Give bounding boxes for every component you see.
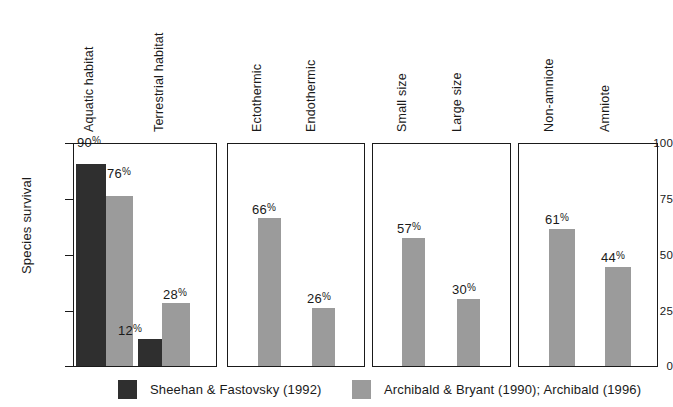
y-tick-mark-50 — [65, 255, 73, 256]
legend: Sheehan & Fastovsky (1992) Archibald & B… — [0, 378, 673, 402]
bar-aquatic-sheehan — [76, 164, 106, 366]
bar-ectothermic-archibald — [258, 218, 281, 366]
bar-value-endothermic: 26% — [307, 292, 331, 305]
bar-value-large-size: 30% — [452, 283, 476, 296]
category-label-small-size: Small size — [395, 73, 409, 132]
panel-body-size — [372, 143, 511, 367]
legend-entry-sheehan-fastovsky: Sheehan & Fastovsky (1992) — [118, 378, 322, 400]
species-survival-bar-chart: 100 75 50 25 0 Species survival 90% 76% … — [0, 0, 673, 407]
category-label-aquatic-habitat: Aquatic habitat — [82, 46, 96, 132]
bar-value-non-amniote: 61% — [545, 213, 569, 226]
category-label-non-amniote: Non-amniote — [542, 58, 556, 132]
bar-amniote-archibald — [605, 267, 631, 366]
legend-label-sheehan: Sheehan & Fastovsky (1992) — [150, 382, 322, 397]
bar-non-amniote-archibald — [549, 229, 575, 366]
category-label-amniote: Amniote — [598, 85, 612, 132]
bar-value-ectothermic: 66% — [252, 203, 276, 216]
legend-swatch-icon-sheehan — [118, 380, 137, 399]
bar-small-size-archibald — [402, 238, 425, 366]
category-label-endothermic: Endothermic — [304, 60, 318, 132]
bar-value-terrestrial-archibald: 28% — [163, 288, 187, 301]
bar-terrestrial-sheehan — [138, 339, 162, 366]
y-tick-mark-25 — [65, 311, 73, 312]
legend-label-archibald: Archibald & Bryant (1990); Archibald (19… — [384, 382, 641, 397]
category-label-terrestrial-habitat: Terrestrial habitat — [152, 32, 166, 132]
legend-entry-archibald: Archibald & Bryant (1990); Archibald (19… — [352, 378, 641, 400]
panel-habitat — [73, 143, 217, 367]
bar-terrestrial-archibald — [162, 303, 190, 366]
panel-thermoregulation — [227, 143, 365, 367]
bar-value-aquatic-archibald: 76% — [107, 167, 131, 180]
bar-value-amniote: 44% — [601, 251, 625, 264]
y-tick-mark-75 — [65, 199, 73, 200]
category-label-large-size: Large size — [450, 72, 464, 132]
bar-endothermic-archibald — [312, 308, 335, 366]
bar-value-small-size: 57% — [397, 222, 421, 235]
bar-large-size-archibald — [457, 299, 480, 366]
y-tick-mark-0 — [65, 366, 73, 367]
y-tick-mark-100 — [65, 143, 73, 144]
category-label-ectothermic: Ectothermic — [250, 64, 264, 132]
legend-swatch-icon-archibald — [352, 380, 371, 399]
bar-aquatic-archibald — [106, 196, 133, 366]
y-axis-title: Species survival — [19, 156, 34, 296]
panel-amniote — [518, 143, 658, 367]
bar-value-aquatic-sheehan: 90% — [77, 136, 101, 149]
bar-value-terrestrial-sheehan: 12% — [118, 324, 142, 337]
